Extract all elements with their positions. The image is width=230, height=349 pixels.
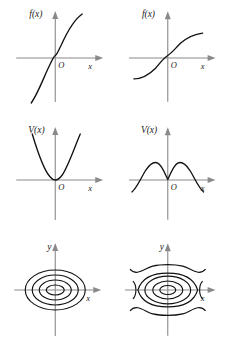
- axis-label-x: x: [87, 61, 92, 71]
- axis-label-vx: V(x): [28, 125, 44, 136]
- axes-panel-1: [16, 11, 103, 102]
- axis-label-x: x: [199, 61, 204, 71]
- axes-panel-5: [14, 243, 101, 336]
- y-axis-arrowhead: [164, 127, 170, 135]
- origin-label: O: [58, 60, 64, 70]
- y-axis-arrowhead: [52, 243, 58, 251]
- y-axis-arrowhead: [52, 127, 58, 135]
- panel-sigmoid: f(x) O x: [115, 0, 230, 116]
- axis-label-x: x: [87, 183, 92, 193]
- x-axis-arrowhead: [207, 287, 215, 293]
- panel-center-saddle-orbits: y x: [115, 232, 230, 349]
- axis-label-x: x: [199, 293, 204, 303]
- curve-parabola: [32, 134, 80, 180]
- x-axis-arrowhead: [95, 177, 103, 183]
- axis-label-fx: f(x): [29, 9, 42, 20]
- axis-label-y: y: [46, 242, 52, 252]
- axes-panel-4: [128, 127, 215, 220]
- axis-label-fx: f(x): [141, 9, 154, 20]
- axes-panel-3: [16, 127, 103, 220]
- panel-cubic-increasing: f(x) O x: [0, 0, 115, 116]
- x-axis-arrowhead: [207, 177, 215, 183]
- origin-label: O: [170, 60, 176, 70]
- y-axis-arrowhead: [164, 243, 170, 251]
- panel-single-well: V(x) O x: [0, 116, 115, 232]
- axis-label-y: y: [158, 242, 164, 252]
- y-axis-arrowhead: [52, 11, 58, 19]
- axis-label-x: x: [199, 183, 204, 193]
- axis-label-vx: V(x): [140, 125, 156, 136]
- figure-grid: f(x) O x f(x) O x: [0, 0, 229, 349]
- origin-label: O: [170, 182, 176, 192]
- panel-center-orbits: y x: [0, 232, 115, 349]
- y-axis-arrowhead: [164, 11, 170, 19]
- origin-label: O: [58, 182, 64, 192]
- x-axis-arrowhead: [207, 55, 215, 61]
- x-axis-arrowhead: [93, 287, 101, 293]
- axes-panel-2: [128, 11, 215, 102]
- axis-label-x: x: [85, 293, 90, 303]
- x-axis-arrowhead: [95, 55, 103, 61]
- panel-double-hump: V(x) O x: [115, 116, 230, 232]
